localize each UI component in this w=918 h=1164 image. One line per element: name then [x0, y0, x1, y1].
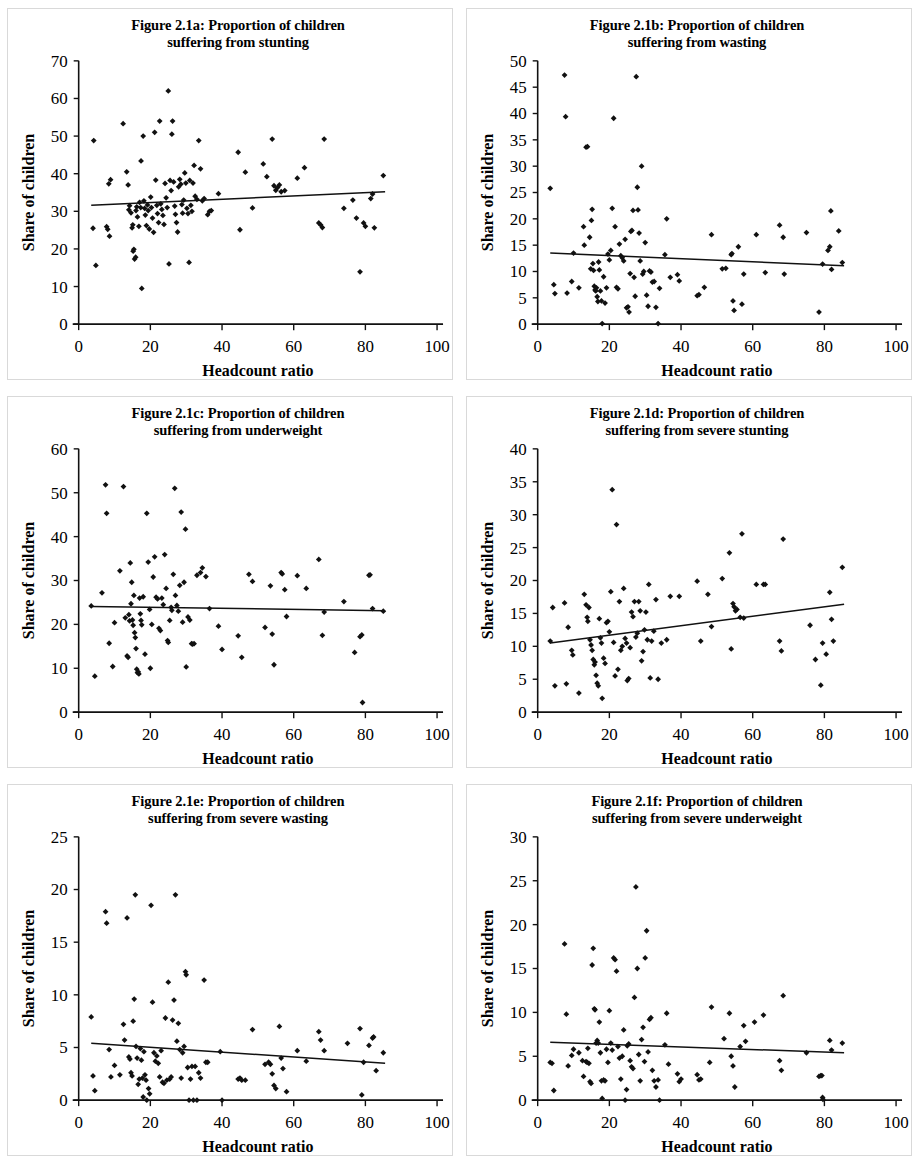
data-point	[741, 271, 747, 277]
data-point	[705, 591, 711, 597]
data-point	[636, 599, 642, 605]
data-point-group	[88, 892, 386, 1103]
data-point	[150, 999, 156, 1005]
data-point	[90, 225, 96, 231]
data-point	[144, 510, 150, 516]
data-point	[637, 608, 643, 614]
data-point	[183, 664, 189, 670]
data-point	[728, 1053, 734, 1059]
data-point	[174, 1038, 180, 1044]
data-point	[780, 234, 786, 240]
data-point	[589, 218, 595, 224]
y-tick-label: 25	[510, 872, 527, 891]
trend-line	[550, 604, 844, 643]
data-point	[550, 605, 556, 611]
data-point	[709, 232, 715, 238]
data-point	[601, 274, 607, 280]
data-point	[380, 608, 386, 614]
data-point	[781, 271, 787, 277]
x-tick-label: 40	[214, 1113, 231, 1132]
data-point	[124, 915, 130, 921]
data-point	[596, 267, 602, 273]
data-point	[269, 136, 275, 142]
data-point	[173, 211, 179, 217]
data-point	[662, 252, 668, 258]
data-point	[777, 638, 783, 644]
x-tick-label: 100	[883, 725, 908, 744]
data-point	[170, 1017, 176, 1023]
y-tick-label: 40	[510, 440, 527, 459]
x-tick-label: 0	[74, 1113, 82, 1132]
data-point	[132, 635, 138, 641]
data-point	[175, 608, 181, 614]
data-point	[658, 640, 664, 646]
data-point	[723, 265, 729, 271]
data-point	[181, 579, 187, 585]
data-point	[163, 586, 169, 592]
data-point	[606, 629, 612, 635]
data-point	[598, 1050, 604, 1056]
data-point	[162, 181, 168, 187]
data-point	[88, 1014, 94, 1020]
data-point	[590, 261, 596, 267]
data-point	[739, 301, 745, 307]
data-point	[709, 624, 715, 630]
data-point	[839, 1040, 845, 1046]
data-point	[647, 675, 653, 681]
data-point	[569, 647, 575, 653]
data-point	[701, 284, 707, 290]
y-tick-label: 30	[510, 506, 527, 525]
data-point	[196, 138, 202, 144]
data-point	[621, 586, 627, 592]
data-point	[184, 205, 190, 211]
data-point	[593, 672, 599, 678]
data-point	[694, 1072, 700, 1078]
data-point	[174, 220, 180, 226]
data-point	[160, 602, 166, 608]
x-tick-label: 20	[601, 1113, 618, 1132]
y-tick-label: 30	[510, 157, 527, 176]
data-point	[563, 681, 569, 687]
x-tick-label: 100	[883, 337, 908, 356]
data-point	[282, 587, 288, 593]
data-point	[216, 191, 222, 197]
data-point	[596, 259, 602, 265]
data-point	[157, 1074, 163, 1080]
data-point	[165, 88, 171, 94]
y-tick-label: 20	[51, 615, 68, 634]
y-tick-label: 0	[59, 1091, 67, 1110]
data-point-group	[90, 88, 386, 291]
x-tick-label: 40	[673, 1113, 690, 1132]
y-tick-label: 15	[510, 959, 527, 978]
data-point-group	[88, 482, 386, 705]
y-tick-label: 15	[510, 604, 527, 623]
data-point	[159, 595, 165, 601]
data-point	[585, 1045, 591, 1051]
data-point	[643, 609, 649, 615]
data-point	[341, 205, 347, 211]
data-point	[664, 1010, 670, 1016]
data-point	[609, 205, 615, 211]
data-point	[170, 571, 176, 577]
data-point	[615, 666, 621, 672]
data-point	[159, 207, 165, 213]
y-tick-label: 20	[510, 571, 527, 590]
data-point	[269, 1071, 275, 1077]
data-point	[622, 1097, 628, 1103]
data-point	[203, 574, 209, 580]
data-point	[657, 285, 663, 291]
data-point	[246, 571, 252, 577]
y-tick-label: 5	[59, 1038, 67, 1057]
data-point	[818, 682, 824, 688]
data-point	[562, 941, 568, 947]
data-point	[636, 1052, 642, 1058]
y-tick-label: 15	[51, 933, 68, 952]
data-point	[564, 290, 570, 296]
data-point	[361, 1059, 367, 1065]
data-point	[268, 583, 274, 589]
data-point	[694, 578, 700, 584]
data-point	[172, 203, 178, 209]
data-point	[576, 690, 582, 696]
data-point	[250, 205, 256, 211]
data-point	[813, 657, 819, 663]
